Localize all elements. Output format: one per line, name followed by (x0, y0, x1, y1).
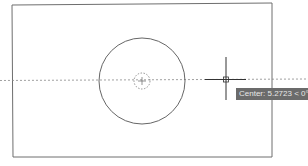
polar-tracking-line (0, 79, 308, 81)
drawing-canvas[interactable] (0, 0, 308, 166)
dynamic-input-tooltip: Center: 5.2723 < 0° (236, 88, 308, 100)
